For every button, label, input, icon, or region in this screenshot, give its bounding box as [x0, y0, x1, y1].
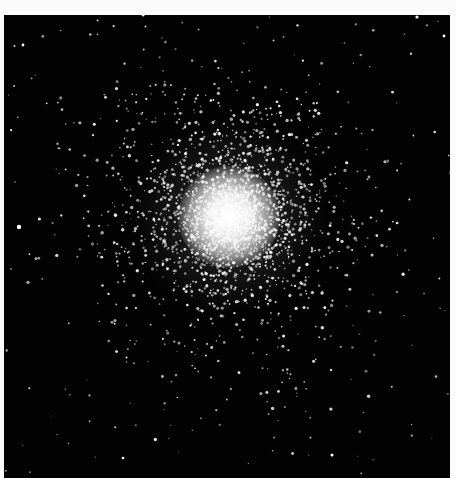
cluster-photo: Black-and-white photograph of a dense gl…: [4, 15, 450, 478]
star-field: [4, 15, 450, 478]
